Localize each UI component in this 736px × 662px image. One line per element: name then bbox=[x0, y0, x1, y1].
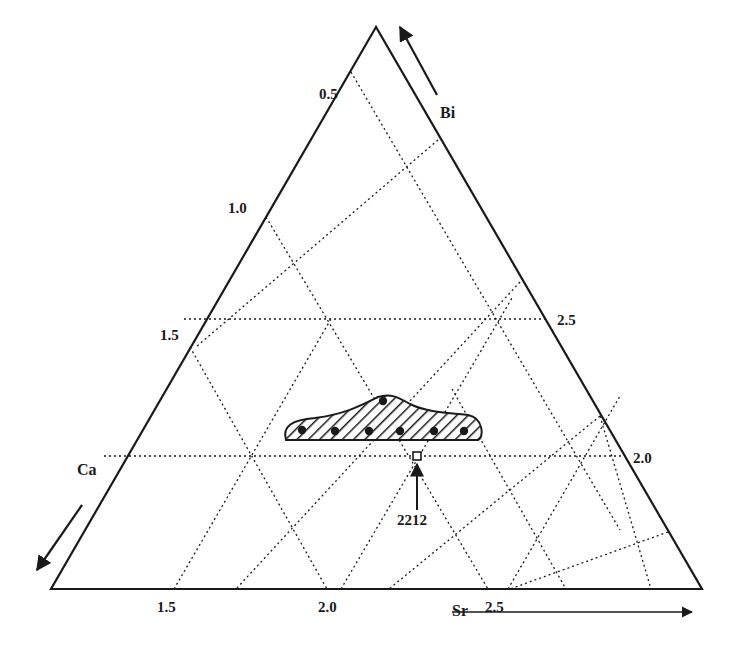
tick-bottom-2-0: 2.0 bbox=[318, 600, 337, 615]
gridline bbox=[508, 396, 620, 589]
axis-label-sr: Sr bbox=[452, 603, 468, 619]
gridline bbox=[196, 140, 438, 347]
data-point bbox=[396, 427, 404, 435]
data-point bbox=[430, 427, 438, 435]
data-point bbox=[298, 426, 306, 434]
gridlines bbox=[104, 72, 668, 589]
axis-label-bi: Bi bbox=[440, 105, 455, 121]
tick-left-1-5: 1.5 bbox=[160, 328, 179, 343]
data-point bbox=[460, 427, 468, 435]
tick-right-2-0: 2.0 bbox=[633, 451, 652, 466]
data-point bbox=[331, 427, 339, 435]
tick-left-1-0: 1.0 bbox=[228, 201, 247, 216]
gridline bbox=[510, 532, 668, 589]
gridline bbox=[341, 298, 512, 589]
gridline bbox=[600, 416, 651, 589]
tick-bottom-2-5: 2.5 bbox=[485, 600, 504, 615]
gridline bbox=[174, 319, 331, 589]
data-point bbox=[365, 427, 373, 435]
gridline bbox=[190, 347, 327, 589]
gridline bbox=[351, 72, 620, 530]
arrow-bi-icon bbox=[400, 27, 437, 95]
annotation-2212: 2212 bbox=[397, 513, 427, 528]
ternary-diagram bbox=[0, 0, 736, 662]
data-point bbox=[379, 397, 387, 405]
composition-2212-marker bbox=[413, 452, 421, 460]
tick-right-2-5: 2.5 bbox=[557, 313, 576, 328]
tick-bottom-1-5: 1.5 bbox=[157, 600, 176, 615]
axis-label-ca: Ca bbox=[77, 462, 97, 478]
gridline bbox=[389, 416, 600, 589]
tick-left-0-5: 0.5 bbox=[319, 87, 338, 102]
triangle-outline bbox=[51, 27, 702, 589]
arrow-ca-icon bbox=[37, 505, 82, 570]
